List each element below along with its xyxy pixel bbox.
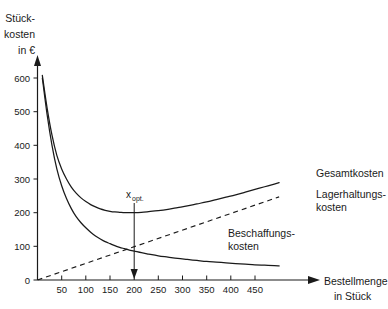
y-tick-label: 300 [14,174,30,185]
x-tick-label: 50 [56,284,67,295]
x-tick-label: 150 [102,284,118,295]
x-tick-300: 300 [175,276,191,296]
y-tick-400: 400 [14,140,37,151]
x-tick-100: 100 [78,276,94,296]
x-optimum-subscript: opt. [132,195,144,203]
x-tick-150: 150 [102,276,118,296]
x-optimum-annotation: x opt. [126,189,144,279]
series-label-beschaffungskosten-line-2: kosten [228,240,259,252]
y-axis-title-line-1: Stück- [5,12,35,24]
y-tick-label: 200 [14,207,30,218]
y-tick-label: 0 [25,275,30,286]
x-tick-350: 350 [199,276,215,296]
y-axis-ticks: 0 100 200 300 400 500 [14,73,37,286]
x-axis-title-line-1: Bestellmenge [324,275,388,287]
y-axis-arrow-icon [34,55,41,66]
x-tick-label: 400 [223,284,239,295]
y-tick-500: 500 [14,106,37,117]
x-tick-400: 400 [223,276,239,296]
y-tick-label: 500 [14,106,30,117]
x-tick-label: 350 [199,284,215,295]
y-tick-600: 600 [14,73,37,84]
x-tick-label: 300 [175,284,191,295]
x-tick-250: 250 [150,276,166,296]
x-optimum-label: x [126,189,131,200]
x-tick-450: 450 [247,276,263,296]
y-tick-0: 0 [25,275,38,286]
series-label-beschaffungskosten: Beschaffungs- kosten [228,227,295,252]
series-label-beschaffungskosten-line-1: Beschaffungs- [228,227,295,239]
y-tick-label: 100 [14,241,30,252]
x-tick-50: 50 [56,276,67,296]
x-axis-title: Bestellmenge in Stück [324,275,388,302]
x-tick-label: 200 [126,284,142,295]
x-tick-label: 250 [150,284,166,295]
y-tick-label: 600 [14,73,30,84]
x-tick-label: 100 [78,284,94,295]
y-axis-title-line-3: in € [18,44,35,56]
x-optimum-arrow-icon [131,269,138,279]
series-label-lagerhaltungskosten: Lagerhaltungs- kosten [316,188,387,213]
x-axis-ticks: 50 100 150 200 250 300 [56,276,263,296]
series-label-gesamtkosten: Gesamtkosten [316,167,384,179]
series-line-gesamtkosten [42,75,279,212]
y-tick-300: 300 [14,174,37,185]
cost-curve-chart: Stück- kosten in € 0 100 [0,0,388,309]
axes-group [34,55,320,284]
x-axis-title-line-2: in Stück [334,290,372,302]
y-tick-200: 200 [14,207,37,218]
y-axis-title: Stück- kosten in € [4,12,35,56]
x-axis-arrow-icon [308,276,320,284]
chart-canvas: Stück- kosten in € 0 100 [0,0,388,309]
series-label-lagerhaltungskosten-line-1: Lagerhaltungs- [316,188,387,200]
series-label-gesamtkosten-line-1: Gesamtkosten [316,167,384,179]
y-axis-title-line-2: kosten [4,28,35,40]
series-label-lagerhaltungskosten-line-2: kosten [316,201,347,213]
y-tick-label: 400 [14,140,30,151]
y-tick-100: 100 [14,241,37,252]
x-tick-label: 450 [247,284,263,295]
